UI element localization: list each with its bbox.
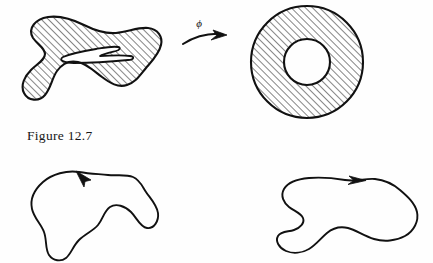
oriented-closed-curve-left	[31, 171, 158, 260]
figure-page: ϕ Figure 12.7	[0, 0, 433, 263]
arrow-head-icon	[211, 30, 227, 40]
left-curve-path	[31, 171, 158, 260]
right-curve-path	[277, 178, 417, 253]
phi-label: ϕ	[196, 17, 202, 29]
oriented-closed-curve-right	[277, 176, 417, 253]
hatched-blob-with-hole	[10, 5, 175, 115]
hatched-annulus	[245, 0, 370, 125]
figure-caption: Figure 12.7	[27, 128, 93, 144]
map-arrow-phi: ϕ	[183, 17, 227, 44]
